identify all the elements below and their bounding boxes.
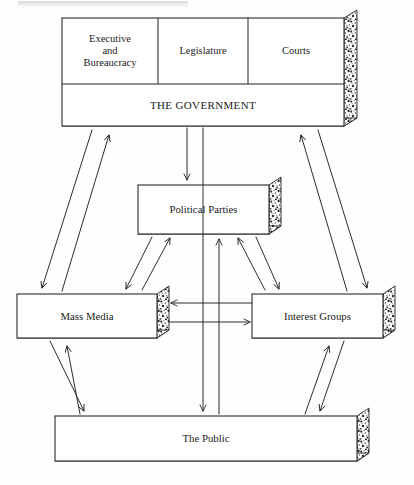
diagram-graphics [0, 0, 414, 485]
arrow-mass-media-to-political-parties [142, 238, 170, 290]
government-box-shape [62, 10, 357, 126]
arrow-government-to-interest-groups [318, 130, 367, 288]
political-parties-box-shape [138, 177, 281, 234]
arrow-interest-groups-to-government [301, 135, 347, 291]
interest-groups-box-shape [252, 286, 395, 338]
arrow-government-to-mass-media [42, 130, 92, 288]
arrow-political-parties-to-interest-groups [256, 237, 279, 289]
mass-media-box-shape [17, 286, 169, 338]
arrow-mass-media-to-government [62, 135, 109, 291]
arrow-interest-groups-to-political-parties [238, 238, 265, 290]
public-box-shape [55, 408, 369, 461]
arrow-political-parties-to-mass-media [126, 237, 152, 289]
diagram-canvas: Executive and Bureaucracy Legislature Co… [0, 0, 414, 485]
arrow-interest-groups-to-public [320, 341, 344, 411]
arrow-public-to-interest-groups [305, 346, 329, 414]
arrow-mass-media-to-public [50, 341, 84, 411]
